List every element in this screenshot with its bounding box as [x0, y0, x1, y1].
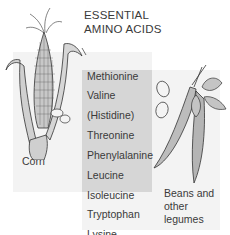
- acid-threonine: Threonine: [87, 129, 134, 141]
- title-line-2: AMINO ACIDS: [84, 22, 162, 36]
- acid-leucine: Leucine: [87, 169, 124, 181]
- corn-icon: [0, 0, 90, 160]
- beans-label-line-3: legumes: [164, 213, 214, 226]
- acid-tryptophan: Tryptophan: [87, 208, 140, 220]
- beans-label: Beans and other legumes: [164, 187, 214, 226]
- bean-pod-icon: [150, 65, 230, 190]
- acid-methionine: Methionine: [87, 70, 138, 82]
- beans-label-line-2: other: [164, 200, 214, 213]
- acid-valine: Valine: [87, 89, 115, 101]
- title-line-1: ESSENTIAL: [84, 8, 162, 22]
- acid-phenylalanine: Phenylalanine: [87, 149, 153, 161]
- acid-isoleucine: Isoleucine: [87, 189, 134, 201]
- acid-lysine: Lysine: [87, 228, 117, 235]
- diagram-title: ESSENTIAL AMINO ACIDS: [84, 8, 162, 36]
- acid-histidine: (Histidine): [87, 109, 134, 121]
